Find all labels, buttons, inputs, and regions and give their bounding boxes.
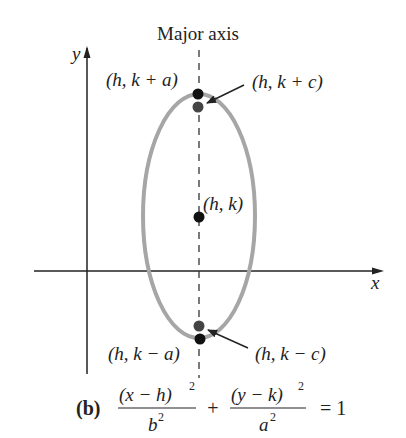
term1-denominator-exponent: 2 [158, 410, 164, 424]
bottom-vertex-dot [195, 334, 206, 345]
part-label: (b) [76, 397, 100, 420]
term1-numerator-exponent: 2 [189, 379, 195, 393]
top-vertex-label: (h, k + a) [106, 69, 178, 91]
term1-numerator: (x − h) [119, 384, 172, 406]
top-focus-dot [193, 102, 204, 113]
term2-denominator: a [259, 414, 269, 435]
top-focus-arrow-icon [207, 85, 244, 103]
term1-denominator: b [148, 414, 158, 435]
term2-numerator-exponent: 2 [298, 379, 304, 393]
ellipse-diagram: Major axis y x (h, k + a) (h, k + c) (h,… [0, 0, 406, 438]
y-axis-arrow-icon [84, 46, 91, 58]
top-focus-label: (h, k + c) [252, 71, 323, 93]
center-label: (h, k) [203, 193, 243, 215]
bottom-vertex-label: (h, k − a) [108, 343, 180, 365]
y-axis-label: y [70, 43, 81, 64]
bottom-focus-dot [194, 321, 205, 332]
x-axis-label: x [370, 272, 380, 293]
bottom-focus-label: (h, k − c) [255, 343, 326, 365]
major-axis-title: Major axis [157, 23, 239, 44]
bottom-focus-arrow-icon [208, 330, 248, 348]
ellipse-equation: (b) (x − h) 2 b 2 + (y − k) 2 a 2 = 1 [76, 379, 346, 435]
plus-sign: + [207, 397, 218, 419]
top-vertex-dot [193, 89, 204, 100]
equation-rhs: = 1 [320, 397, 346, 419]
term2-denominator-exponent: 2 [270, 410, 276, 424]
term2-numerator: (y − k) [231, 384, 283, 406]
